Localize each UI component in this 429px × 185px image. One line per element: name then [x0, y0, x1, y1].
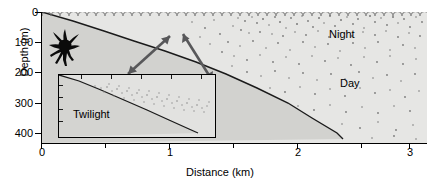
- y-tick-label-100: 100: [3, 36, 33, 48]
- sea-surface-wave: [42, 12, 427, 17]
- x-tick-label-0: 0: [32, 146, 52, 158]
- annotation-day: Day: [340, 77, 360, 89]
- y-axis-tick-0: [35, 12, 41, 13]
- y-tick-label-0: 0: [8, 6, 38, 18]
- y-tick-label-200: 200: [3, 66, 33, 78]
- figure-container: Depth (m) 0 100 200 300 400: [0, 0, 429, 185]
- y-tick-label-400: 400: [3, 127, 33, 139]
- x-axis-tick-2-5: [361, 143, 362, 148]
- twilight-inset-svg: [59, 75, 215, 137]
- x-axis-tick-0-5: [105, 143, 106, 148]
- x-axis-tick-1-5: [233, 143, 234, 148]
- annotation-twilight: Twilight: [73, 108, 110, 120]
- twilight-inset-panel: Twilight: [58, 74, 216, 138]
- y-tick-label-300: 300: [3, 97, 33, 109]
- x-tick-label-2: 2: [288, 146, 308, 158]
- annotation-night: Night: [329, 28, 355, 40]
- y-axis-label: Depth (m): [18, 12, 30, 92]
- y-axis-tick-100: [35, 42, 41, 43]
- x-axis-label: Distance (km): [150, 166, 290, 178]
- y-axis-tick-300: [35, 103, 41, 104]
- x-tick-label-3: 3: [400, 146, 420, 158]
- x-tick-label-1: 1: [160, 146, 180, 158]
- y-axis-tick-200: [35, 72, 41, 73]
- y-axis-tick-400: [35, 133, 41, 134]
